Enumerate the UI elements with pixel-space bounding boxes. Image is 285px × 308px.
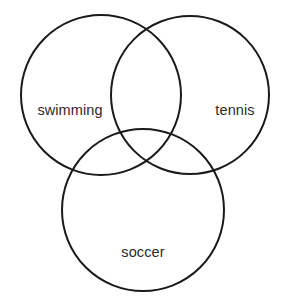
venn-circle-soccer[interactable] [62,129,224,291]
venn-diagram: swimming tennis soccer [0,0,285,308]
venn-label-tennis: tennis [215,102,254,118]
venn-circle-tennis[interactable] [111,16,269,174]
venn-circle-swimming[interactable] [21,15,181,175]
venn-label-soccer: soccer [121,244,164,260]
venn-circles-group [0,0,285,308]
venn-label-swimming: swimming [37,102,102,118]
